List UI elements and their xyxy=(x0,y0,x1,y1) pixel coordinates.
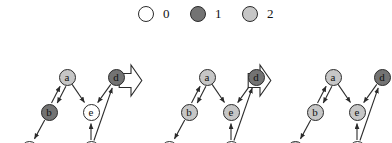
graph-node-label: b xyxy=(312,107,318,118)
edge-b-to-c xyxy=(300,120,310,139)
graph-node-label: e xyxy=(355,107,360,118)
graph-node-label: e xyxy=(89,107,94,118)
graph-node-a[interactable]: a xyxy=(199,69,216,86)
graph-panel-1: abcdef xyxy=(0,28,135,143)
graph-node-b[interactable]: b xyxy=(307,104,324,121)
legend-label-1: 1 xyxy=(215,6,222,22)
legend-item-1: 1 xyxy=(190,4,222,24)
circle-icon xyxy=(138,6,154,22)
graph-node-label: a xyxy=(205,72,210,83)
edge-b-to-c xyxy=(174,120,184,139)
edge-layer xyxy=(0,28,135,143)
edge-a-to-e xyxy=(338,84,350,102)
graph-node-label: d xyxy=(379,72,385,83)
legend-label-0: 0 xyxy=(163,6,170,22)
graph-node-a[interactable]: a xyxy=(59,69,76,86)
legend-label-2: 2 xyxy=(267,6,274,22)
circle-icon xyxy=(190,6,206,22)
graph-node-d[interactable]: d xyxy=(108,69,125,86)
graph-node-e[interactable]: e xyxy=(83,104,100,121)
graph-node-label: b xyxy=(46,107,52,118)
edge-b-to-c xyxy=(34,120,44,139)
graph-node-b[interactable]: b xyxy=(181,104,198,121)
circle-icon xyxy=(242,6,258,22)
graph-node-label: a xyxy=(331,72,336,83)
edge-d-to-e xyxy=(364,84,377,102)
figure-canvas: 0 1 2 abcdefabcdefabcdef xyxy=(0,0,392,143)
legend: 0 1 2 xyxy=(0,0,392,28)
edge-a-to-e xyxy=(212,84,224,102)
graph-node-e[interactable]: e xyxy=(349,104,366,121)
graph-node-d[interactable]: d xyxy=(248,69,265,86)
legend-item-0: 0 xyxy=(138,4,170,24)
graph-node-label: e xyxy=(229,107,234,118)
graph-node-label: d xyxy=(253,72,259,83)
graph-node-label: a xyxy=(65,72,70,83)
edge-layer xyxy=(266,28,392,143)
graph-node-a[interactable]: a xyxy=(325,69,342,86)
edge-d-to-e xyxy=(98,84,111,102)
graph-panel-3: abcdef xyxy=(266,28,392,143)
graph-node-b[interactable]: b xyxy=(41,104,58,121)
legend-item-2: 2 xyxy=(242,4,274,24)
graph-node-label: d xyxy=(113,72,119,83)
graph-node-d[interactable]: d xyxy=(374,69,391,86)
edge-a-to-e xyxy=(72,84,84,102)
graph-node-label: b xyxy=(186,107,192,118)
graph-node-e[interactable]: e xyxy=(223,104,240,121)
